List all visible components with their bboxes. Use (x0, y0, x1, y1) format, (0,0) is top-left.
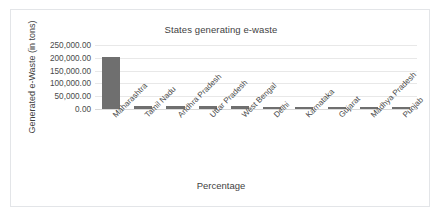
y-axis-tick-label: 100,000.00 (31, 79, 91, 88)
y-axis-tick-label: 150,000.00 (31, 66, 91, 75)
y-axis-tick-label: 0.00 (31, 105, 91, 114)
bar-slot (288, 45, 320, 109)
bar-slot (95, 45, 127, 109)
bar[interactable] (102, 57, 120, 109)
y-axis-tick-label: 50,000.00 (31, 92, 91, 101)
x-axis-title: Percentage (11, 180, 431, 191)
y-axis-tick-labels: 0.0050,000.00100,000.00150,000.00200,000… (31, 45, 91, 109)
x-axis-tick-labels: MaharashtraTamil NaduAndhra PradeshUttar… (95, 111, 417, 173)
chart-title: States generating e-waste (11, 24, 431, 35)
y-axis-tick-label: 250,000.00 (31, 41, 91, 50)
chart-container: States generating e-waste Generated e-Wa… (10, 9, 430, 207)
y-axis-tick-label: 200,000.00 (31, 53, 91, 62)
